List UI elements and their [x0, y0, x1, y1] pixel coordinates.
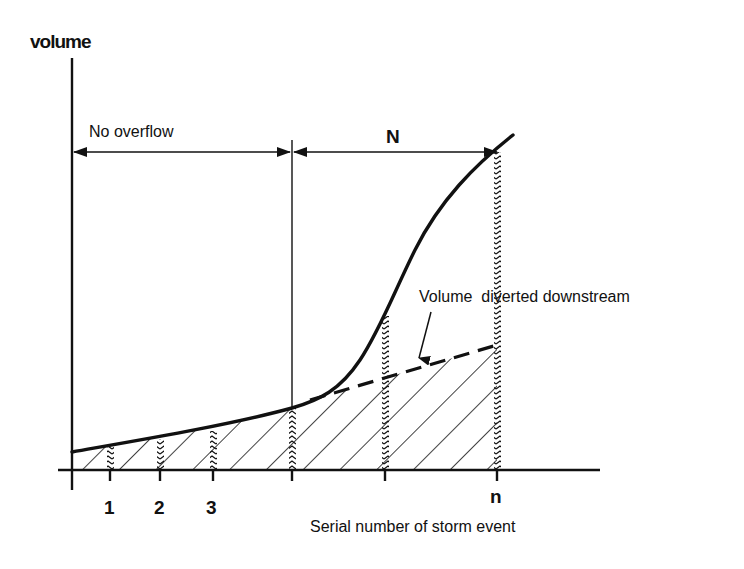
- y-axis-label: volume: [30, 31, 91, 52]
- storm-volume-diagram: volume No overflow N Volume diverted dow…: [0, 0, 744, 569]
- tick-label-1: 1: [104, 497, 115, 518]
- annotation-label: Volume diverted downstream: [419, 288, 630, 305]
- tick-label-n: n: [490, 486, 502, 507]
- tick-label-3: 3: [206, 497, 217, 518]
- tick-label-2: 2: [154, 497, 165, 518]
- no-overflow-label: No overflow: [89, 123, 174, 140]
- x-axis-ticks: [110, 470, 497, 481]
- x-axis-label: Serial number of storm event: [310, 518, 516, 535]
- annotation-pointer-arrow: [419, 312, 431, 358]
- overflow-count-label: N: [386, 126, 400, 147]
